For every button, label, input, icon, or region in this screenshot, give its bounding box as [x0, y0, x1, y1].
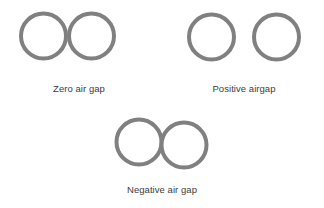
circle-zero-left	[21, 14, 66, 59]
circle-zero-right	[69, 14, 114, 59]
circle-positive-right	[254, 15, 299, 60]
circle-positive-left	[189, 15, 234, 60]
caption-positive-airgap: Positive airgap	[212, 83, 275, 95]
circle-negative-left	[117, 120, 162, 165]
group-zero-air-gap	[21, 14, 114, 59]
group-positive-airgap	[189, 15, 299, 60]
diagram-canvas: Zero air gap Positive airgap Negative ai…	[0, 0, 324, 208]
caption-zero-air-gap: Zero air gap	[53, 83, 105, 95]
circle-negative-right	[162, 123, 207, 168]
circles-svg	[0, 0, 324, 208]
caption-negative-air-gap: Negative air gap	[127, 184, 197, 196]
group-negative-air-gap	[117, 120, 207, 168]
